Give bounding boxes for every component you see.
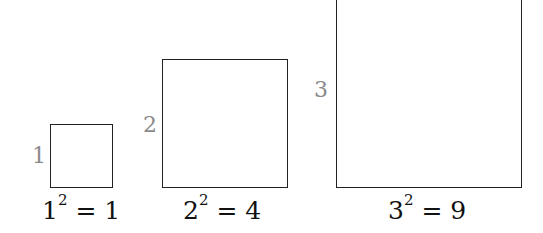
square-1 bbox=[50, 124, 113, 188]
side-label-2: 2 bbox=[143, 112, 157, 137]
square-3 bbox=[336, 0, 522, 188]
caption-1: 12 = 1 bbox=[42, 196, 120, 225]
square-2 bbox=[162, 59, 288, 188]
caption-3: 32 = 9 bbox=[388, 196, 466, 225]
side-label-3: 3 bbox=[314, 77, 328, 102]
side-label-1: 1 bbox=[32, 143, 46, 168]
caption-2: 22 = 4 bbox=[183, 196, 261, 225]
